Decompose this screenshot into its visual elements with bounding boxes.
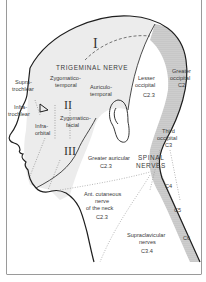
supratrochlear-label-1: Supra- — [15, 79, 32, 85]
greater-auricular-label: Greater auricular — [88, 155, 130, 161]
c6-label: C6 — [183, 235, 190, 241]
third-occipital-label-2: occipital — [157, 135, 177, 141]
division-III-label: III — [64, 144, 76, 158]
lesser-occipital-label-1: Lesser — [138, 75, 155, 81]
supratrochlear-label-2: trochlear — [12, 86, 34, 92]
head-neck-dermatome-diagram: I II III TRIGEMINAL NERVE Supra- trochle… — [0, 0, 206, 282]
greater-occipital-root: C2 — [178, 82, 185, 88]
ant-cutaneous-label-3: of the neck — [86, 205, 114, 211]
trigeminal-heading: TRIGEMINAL NERVE — [56, 64, 128, 71]
lesser-occipital-label-2: occipital — [135, 82, 155, 88]
third-occipital-label-1: Third — [162, 128, 175, 134]
c4-label: C4 — [165, 183, 172, 189]
infraorbital-label-1: Infra- — [35, 123, 48, 129]
greater-occipital-label-1: Greater — [172, 68, 191, 74]
spinal-nerves-label-1: SPINAL — [138, 154, 164, 161]
zygomaticofacial-label-1: Zygomatico- — [60, 115, 91, 121]
greater-occipital-label-2: occipital — [170, 75, 190, 81]
greater-occipital-band — [149, 24, 200, 262]
infratrochlear-label-2: trochlear — [8, 111, 30, 117]
supraclavicular-label-1: Supraclavicular — [127, 232, 165, 238]
c5-label: C5 — [174, 207, 181, 213]
zygomaticofacial-label-2: facial — [66, 122, 79, 128]
infraorbital-label-2: orbital — [35, 130, 50, 136]
zygomaticotemporal-label-2: temporal — [55, 82, 77, 88]
division-I-label: I — [93, 36, 98, 51]
greater-auricular-root: C2.3 — [100, 163, 112, 169]
supraclavicular-label-2: nerves — [139, 239, 156, 245]
lesser-occipital-root: C2.3 — [143, 92, 155, 98]
ant-cutaneous-label-1: Ant. cutaneous — [84, 191, 122, 197]
spinal-nerves-label-2: NERVES — [136, 162, 166, 169]
third-occipital-root: C3 — [165, 142, 172, 148]
ant-cutaneous-label-2: nerve — [95, 198, 109, 204]
supraclavicular-root: C3.4 — [141, 248, 153, 254]
zygomaticotemporal-label-1: Zygomatico- — [50, 75, 81, 81]
auriculotemporal-label-1: Auriculo- — [90, 84, 112, 90]
ant-cutaneous-root: C2.3 — [96, 214, 108, 220]
infratrochlear-label-1: Infra- — [14, 104, 27, 110]
auriculotemporal-label-2: temporal — [90, 91, 112, 97]
division-II-label: II — [64, 98, 72, 112]
trigeminal-region — [24, 16, 155, 200]
